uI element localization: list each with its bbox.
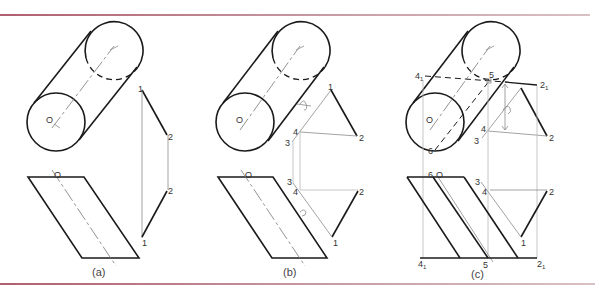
label-O-cylinder-c: O: [426, 115, 433, 125]
label-O-plan-c: O: [436, 170, 443, 180]
label-2-top: 2: [168, 132, 173, 142]
label-4-c-bottom: 4: [482, 187, 487, 197]
label-6-plan: 6: [428, 170, 433, 180]
label-4-b-top: 4: [293, 127, 298, 137]
label-2-bottom: 2: [168, 186, 173, 196]
label-O-cylinder: O: [46, 115, 53, 125]
label-4-b-bottom: 4: [293, 187, 298, 197]
label-O-plan: O: [54, 170, 61, 180]
label-6-cylinder: 6: [428, 146, 433, 156]
label-2-b-bottom: 2: [359, 187, 364, 197]
label-2sub1-top: 21: [540, 80, 549, 91]
label-4sub1-bottom: 41: [418, 259, 427, 270]
cylinder-a: [27, 22, 143, 151]
label-3-b-top: 3: [285, 138, 290, 148]
label-2-b-top: 2: [359, 133, 364, 143]
bottom-rule: [0, 283, 595, 285]
panel-b: O 1 2 4 3 3 4 2 1 O (b): [216, 22, 364, 278]
label-O-plan-b: O: [245, 170, 252, 180]
caption-c: (c): [471, 268, 484, 280]
label-3-c-top: 3: [474, 136, 479, 146]
label-O-cylinder-b: O: [236, 115, 243, 125]
label-2-c-top: 2: [549, 133, 554, 143]
label-5-top: 5: [489, 70, 494, 80]
label-4-c-top: 4: [481, 124, 486, 134]
panel-a: O 1 2 2 1 O (a): [27, 22, 173, 278]
label-1-top: 1: [138, 84, 143, 94]
caption-b: (b): [283, 266, 296, 278]
label-1-b-bottom: 1: [333, 238, 338, 248]
label-3-b-bottom: 3: [287, 177, 292, 187]
label-2sub1-bottom: 21: [537, 259, 546, 270]
cylinder-b: [216, 22, 330, 151]
technical-drawing: O 1 2 2 1 O (a) O: [0, 0, 599, 298]
label-3-c-bottom: 3: [475, 177, 480, 187]
panel-c: O 6 41 5 21 4 3 2 3 4 2 1: [406, 22, 554, 280]
caption-a: (a): [92, 266, 105, 278]
label-1-b-top: 1: [328, 82, 333, 92]
label-1-c-bottom: 1: [521, 238, 526, 248]
label-2-c-bottom: 2: [549, 187, 554, 197]
label-1-bottom: 1: [142, 238, 147, 248]
